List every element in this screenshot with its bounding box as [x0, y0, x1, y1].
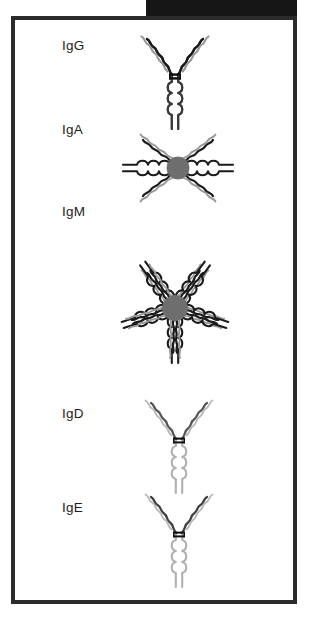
igd-label: IgD: [62, 406, 84, 421]
heavy-chain-arm: [147, 39, 172, 75]
light-chain-arm: [183, 37, 209, 72]
ige-label: IgE: [62, 500, 83, 515]
iga-label: IgA: [62, 122, 83, 137]
iga-j-chain-circle: [167, 157, 189, 179]
fc-stem-chain: [182, 534, 186, 587]
igg-molecule: [142, 37, 209, 130]
light-chain-arm: [146, 495, 172, 530]
light-chain-arm: [146, 401, 172, 436]
light-chain-arm: [181, 176, 216, 202]
fc-stem-chain: [172, 534, 176, 587]
fc-stem-chain: [178, 76, 182, 129]
igm-molecule: [112, 244, 237, 363]
igg-group: IgG: [62, 37, 209, 130]
igd-group: IgD: [62, 401, 213, 494]
light-chain-arm: [142, 37, 168, 72]
light-chain-arm: [181, 135, 216, 161]
light-chain-arm: [141, 176, 176, 202]
heavy-chain-arm: [151, 403, 176, 439]
ige-molecule: [146, 495, 213, 588]
immunoglobulin-diagram: IgG: [15, 20, 293, 600]
igd-molecule: [146, 401, 213, 494]
heavy-chain-arm: [151, 497, 176, 533]
igm-label: IgM: [62, 204, 85, 219]
fc-stem-chain: [168, 76, 172, 129]
iga-group: IgA: [62, 122, 233, 202]
light-chain-arm: [187, 495, 213, 530]
figure-frame: IgG: [11, 16, 297, 604]
fc-stem-chain: [182, 440, 186, 493]
heavy-chain-arm: [182, 497, 207, 533]
ige-group: IgE: [62, 495, 213, 588]
heavy-chain-arm: [182, 403, 207, 439]
light-chain-arm: [141, 135, 176, 161]
igm-group: IgM: [62, 204, 238, 363]
light-chain-arm: [187, 401, 213, 436]
igm-j-chain-circle: [163, 296, 188, 321]
iga-molecule: [123, 135, 233, 202]
igg-label: IgG: [62, 38, 84, 53]
fc-stem-chain: [172, 440, 176, 493]
heavy-chain-arm: [178, 39, 203, 75]
